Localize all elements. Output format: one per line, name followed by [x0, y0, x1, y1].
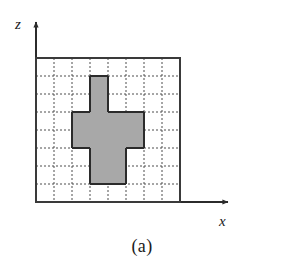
- figure-container: z x (a): [0, 0, 284, 271]
- z-axis-label: z: [15, 17, 21, 32]
- x-axis-label: x: [219, 214, 226, 229]
- plot-frame-border: [36, 58, 180, 202]
- figure-caption: (a): [0, 236, 284, 257]
- plot-frame: [0, 0, 284, 271]
